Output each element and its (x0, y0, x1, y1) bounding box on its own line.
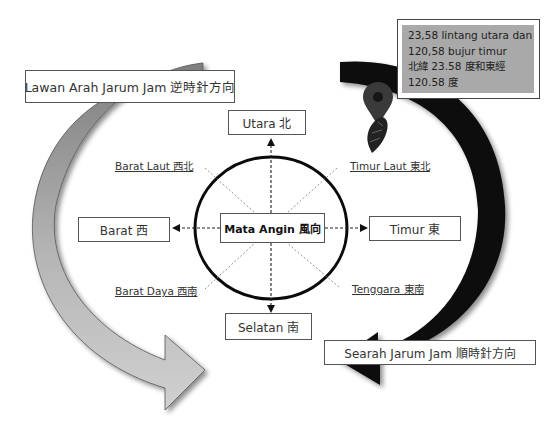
southeast-label: Tenggara 東南 (352, 281, 424, 296)
north-box: Utara 北 (228, 110, 306, 135)
coordinates-box: 23,58 lintang utara dan 120,58 bujur tim… (402, 25, 534, 93)
coordinates-line: 北緯 23.58 度和東經 (408, 59, 528, 75)
clockwise-label: Searah Jarum Jam 順時針方向 (324, 340, 536, 365)
west-box: Barat 西 (78, 217, 170, 242)
coordinates-line: 23,58 lintang utara dan (408, 28, 528, 44)
coordinates-line: 120.58 度 (408, 75, 528, 91)
east-box: Timur 東 (369, 216, 461, 241)
taiwan-map-icon (367, 117, 387, 153)
northwest-label: Barat Laut 西北 (115, 158, 193, 173)
coordinates-line: 120,58 bujur timur (408, 44, 528, 60)
northeast-label: Timur Laut 東北 (350, 158, 430, 173)
southwest-label: Barat Daya 西南 (115, 283, 197, 298)
counterclockwise-label: Lawan Arah Jarum Jam 逆時針方向 (25, 70, 235, 103)
compass-center-box: Mata Angin 風向 (220, 213, 325, 243)
south-box: Selatan 南 (225, 313, 312, 340)
